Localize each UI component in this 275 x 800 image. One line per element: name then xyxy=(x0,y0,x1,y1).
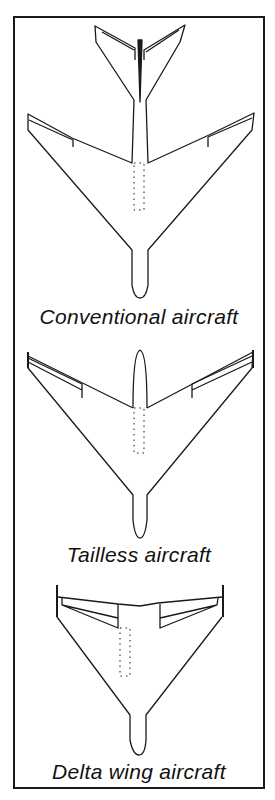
tailless-aircraft-drawing xyxy=(28,350,253,538)
caption-tailless: Tailless aircraft xyxy=(13,543,265,567)
conventional-aircraft-drawing xyxy=(28,25,254,298)
caption-delta-wing: Delta wing aircraft xyxy=(13,760,265,784)
aircraft-diagrams xyxy=(0,0,275,800)
delta-wing-aircraft-drawing xyxy=(57,585,223,755)
caption-conventional: Conventional aircraft xyxy=(13,305,265,329)
